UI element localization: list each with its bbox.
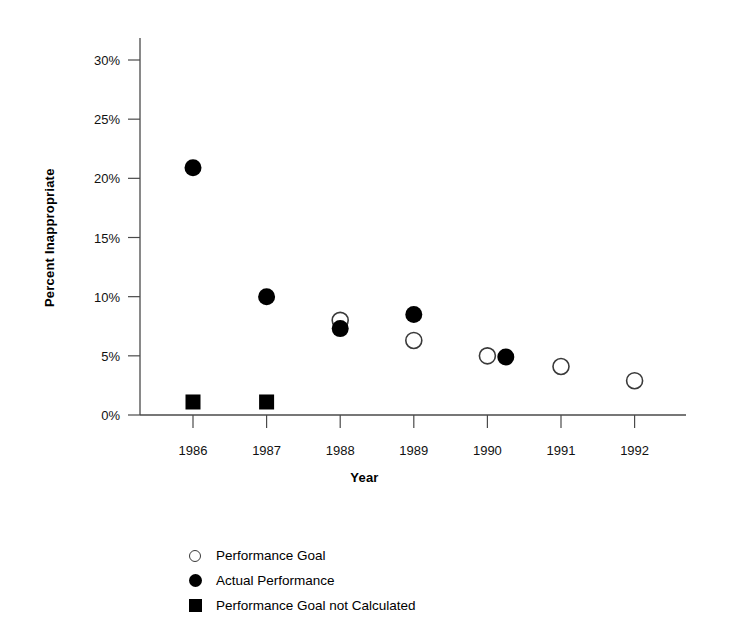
y-axis-title: Percent Inappropriate	[42, 168, 57, 307]
y-axis-tick-label: 30%	[94, 53, 120, 68]
marker-filled-circle	[405, 306, 422, 323]
x-axis-tick-label: 1988	[326, 443, 355, 458]
marker-filled-square	[186, 394, 201, 409]
marker-open-circle	[479, 348, 495, 364]
open-circle-icon-glyph	[189, 550, 201, 562]
filled-square-icon-glyph	[189, 599, 202, 612]
legend-item-label: Actual Performance	[216, 573, 335, 588]
y-axis-tick-label: 0%	[101, 408, 120, 423]
x-axis-tick-label: 1987	[252, 443, 281, 458]
marker-open-circle	[627, 373, 643, 389]
x-axis-tick-label: 1992	[620, 443, 649, 458]
legend-item: Performance Goal	[186, 543, 416, 568]
x-axis-tick-label: 1990	[473, 443, 502, 458]
marker-open-circle	[553, 358, 569, 374]
axis-lines	[140, 38, 686, 415]
y-axis-tick-label: 25%	[94, 112, 120, 127]
legend-item-label: Performance Goal	[216, 548, 326, 563]
data-markers	[185, 159, 643, 409]
y-axis-tick-label: 10%	[94, 289, 120, 304]
x-axis-tick-label: 1991	[547, 443, 576, 458]
marker-filled-circle	[185, 159, 202, 176]
chart-legend: Performance GoalActual PerformancePerfor…	[186, 543, 416, 618]
x-axis-title: Year	[0, 470, 729, 485]
y-axis-tick-label: 20%	[94, 171, 120, 186]
legend-item: Actual Performance	[186, 568, 416, 593]
x-axis-tick-label: 1989	[399, 443, 428, 458]
marker-filled-circle	[258, 288, 275, 305]
filled-circle-icon	[186, 574, 204, 587]
legend-item: Performance Goal not Calculated	[186, 593, 416, 618]
filled-square-icon	[186, 599, 204, 612]
marker-filled-square	[259, 394, 274, 409]
open-circle-icon	[186, 550, 204, 562]
y-axis-tick-label: 5%	[101, 348, 120, 363]
marker-open-circle	[406, 332, 422, 348]
y-axis-tick-label: 15%	[94, 230, 120, 245]
marker-filled-circle	[332, 320, 349, 337]
chart-container: Percent Inappropriate Year 30%25%20%15%1…	[0, 0, 729, 641]
marker-filled-circle	[497, 349, 514, 366]
filled-circle-icon-glyph	[189, 574, 202, 587]
legend-item-label: Performance Goal not Calculated	[216, 598, 416, 613]
x-axis-tick-label: 1986	[179, 443, 208, 458]
